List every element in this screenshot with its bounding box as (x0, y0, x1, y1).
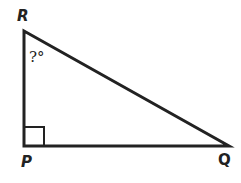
vertex-label-p: P (21, 153, 32, 171)
triangle-pqr (24, 31, 229, 146)
vertex-label-r: R (17, 7, 29, 25)
vertex-label-q: Q (218, 151, 231, 169)
right-angle-marker (24, 127, 44, 146)
triangle-diagram: R P Q ?° (0, 0, 241, 183)
unknown-angle-label: ?° (29, 48, 45, 66)
